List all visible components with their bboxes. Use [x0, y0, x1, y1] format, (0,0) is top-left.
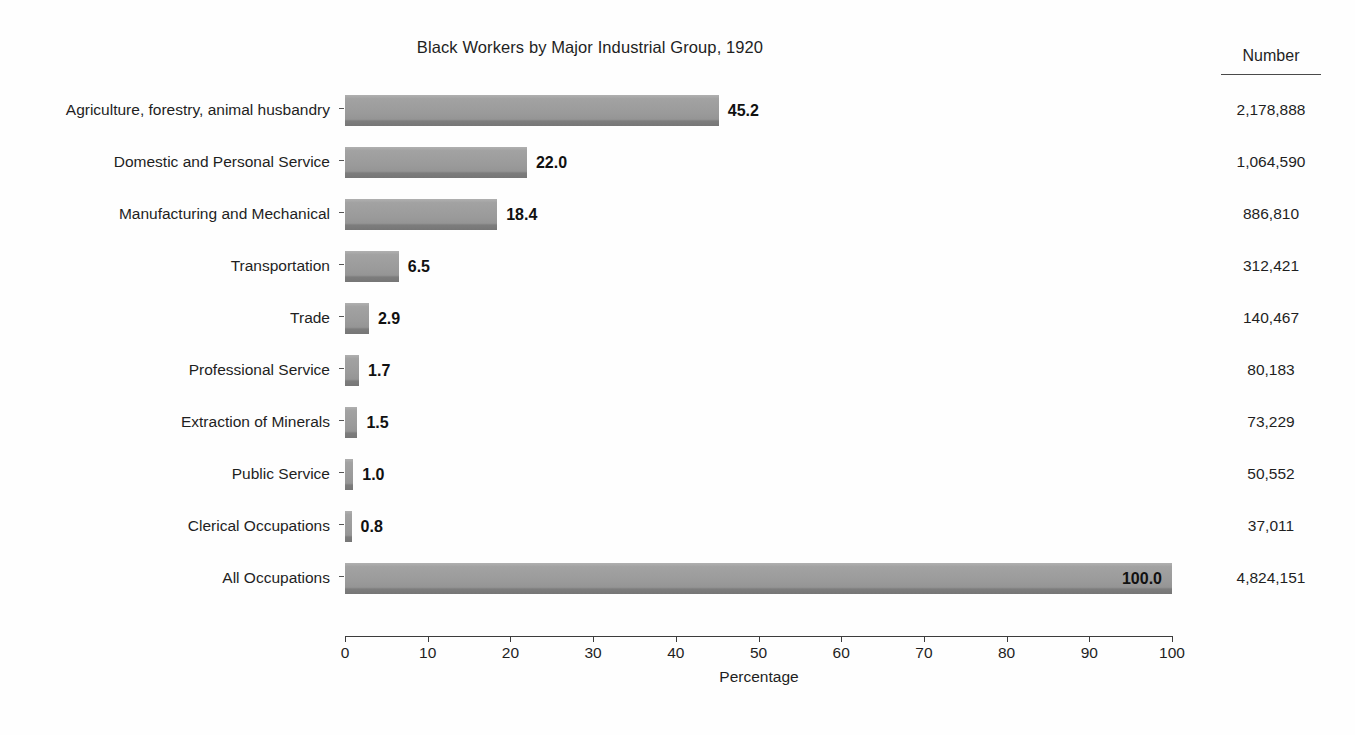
number-column-value: 140,467: [1200, 292, 1342, 344]
bar-value-label: 1.0: [353, 459, 384, 490]
x-axis-tick-label: 30: [563, 644, 623, 662]
category-label: Trade: [0, 292, 330, 344]
bar-container: 18.4: [345, 199, 1172, 230]
bar: [345, 303, 369, 334]
chart-row: Clerical Occupations0.837,011: [0, 500, 1355, 552]
x-axis-tick-label: 40: [646, 644, 706, 662]
number-column-value: 50,552: [1200, 448, 1342, 500]
category-label: Professional Service: [0, 344, 330, 396]
category-label: All Occupations: [0, 552, 330, 604]
y-axis-tick: [339, 524, 344, 525]
bar-container: 100.0: [345, 563, 1172, 594]
chart-row: Public Service1.050,552: [0, 448, 1355, 500]
bar-container: 1.0: [345, 459, 1172, 490]
bar-value-label: 1.5: [357, 407, 388, 438]
chart-row: Domestic and Personal Service22.01,064,5…: [0, 136, 1355, 188]
x-axis-tick: [676, 637, 677, 642]
category-label: Clerical Occupations: [0, 500, 330, 552]
category-label: Extraction of Minerals: [0, 396, 330, 448]
chart-row: Trade2.9140,467: [0, 292, 1355, 344]
x-axis-tick: [428, 637, 429, 642]
x-axis-tick: [841, 637, 842, 642]
bar-value-label: 22.0: [527, 147, 567, 178]
bar-container: 22.0: [345, 147, 1172, 178]
category-label: Agriculture, forestry, animal husbandry: [0, 84, 330, 136]
y-axis-tick: [339, 212, 344, 213]
x-axis-tick-label: 10: [398, 644, 458, 662]
bar: [345, 147, 527, 178]
bar: [345, 251, 399, 282]
x-axis-tick-label: 50: [729, 644, 789, 662]
category-label: Public Service: [0, 448, 330, 500]
bar-container: 2.9: [345, 303, 1172, 334]
x-axis-tick-label: 80: [977, 644, 1037, 662]
x-axis-tick-label: 20: [480, 644, 540, 662]
x-axis-tick-label: 70: [894, 644, 954, 662]
y-axis-tick: [339, 368, 344, 369]
chart-page: Black Workers by Major Industrial Group,…: [0, 0, 1355, 735]
category-label: Manufacturing and Mechanical: [0, 188, 330, 240]
x-axis-tick: [924, 637, 925, 642]
number-column-rule: [1221, 74, 1321, 75]
x-axis-tick: [759, 637, 760, 642]
x-axis-tick: [593, 637, 594, 642]
bar: [345, 95, 719, 126]
category-label: Domestic and Personal Service: [0, 136, 330, 188]
number-column-value: 1,064,590: [1200, 136, 1342, 188]
bar: [345, 511, 352, 542]
number-column-value: 80,183: [1200, 344, 1342, 396]
number-column-value: 4,824,151: [1200, 552, 1342, 604]
bar: [345, 407, 357, 438]
x-axis-tick: [1089, 637, 1090, 642]
x-axis-tick: [345, 637, 346, 642]
x-axis-tick: [510, 637, 511, 642]
bar-container: 1.7: [345, 355, 1172, 386]
bar-container: 1.5: [345, 407, 1172, 438]
y-axis-tick: [339, 576, 344, 577]
y-axis-tick: [339, 472, 344, 473]
bar: [345, 459, 353, 490]
chart-row: Manufacturing and Mechanical18.4886,810: [0, 188, 1355, 240]
category-label: Transportation: [0, 240, 330, 292]
chart-row: Professional Service1.780,183: [0, 344, 1355, 396]
x-axis-tick-label: 90: [1059, 644, 1119, 662]
bar-value-label: 18.4: [497, 199, 537, 230]
bar-value-label: 6.5: [399, 251, 430, 282]
x-axis-tick: [1172, 637, 1173, 642]
x-axis-tick-label: 100: [1142, 644, 1202, 662]
number-column-header: Number: [1200, 47, 1342, 65]
x-axis-tick-label: 60: [811, 644, 871, 662]
bar-value-label: 45.2: [719, 95, 759, 126]
bar-container: 6.5: [345, 251, 1172, 282]
chart-row: Extraction of Minerals1.573,229: [0, 396, 1355, 448]
chart-row: All Occupations100.04,824,151: [0, 552, 1355, 604]
x-axis-title: Percentage: [345, 668, 1173, 686]
chart-row: Transportation6.5312,421: [0, 240, 1355, 292]
bar-value-label: 2.9: [369, 303, 400, 334]
plot-area: Agriculture, forestry, animal husbandry4…: [0, 84, 1355, 636]
y-axis-tick: [339, 316, 344, 317]
bar: [345, 199, 497, 230]
number-column-value: 886,810: [1200, 188, 1342, 240]
number-column-value: 2,178,888: [1200, 84, 1342, 136]
bar-value-label: 0.8: [352, 511, 383, 542]
y-axis-tick: [339, 264, 344, 265]
bar: [345, 563, 1172, 594]
bar-value-label: 1.7: [359, 355, 390, 386]
bar-container: 45.2: [345, 95, 1172, 126]
y-axis-tick: [339, 160, 344, 161]
y-axis-tick: [339, 420, 344, 421]
number-column-value: 312,421: [1200, 240, 1342, 292]
x-axis-tick: [1007, 637, 1008, 642]
y-axis-tick: [339, 108, 344, 109]
x-axis-tick-label: 0: [315, 644, 375, 662]
page-title: Black Workers by Major Industrial Group,…: [0, 38, 1180, 57]
bar-container: 0.8: [345, 511, 1172, 542]
chart-row: Agriculture, forestry, animal husbandry4…: [0, 84, 1355, 136]
number-column-value: 37,011: [1200, 500, 1342, 552]
number-column-value: 73,229: [1200, 396, 1342, 448]
bar-value-label: 100.0: [1122, 563, 1172, 594]
bar: [345, 355, 359, 386]
